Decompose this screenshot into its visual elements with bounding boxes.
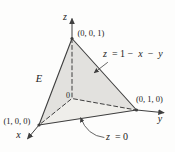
z-axis-label: z bbox=[62, 11, 67, 22]
base-eq-rest: = 0 bbox=[112, 131, 128, 142]
vertex-dot-left bbox=[37, 123, 40, 126]
vertex-dot-top bbox=[70, 37, 73, 40]
plane-eq-z: z bbox=[102, 48, 107, 59]
base-label-arrow bbox=[81, 118, 104, 138]
vertex-right-label: (0, 1, 0) bbox=[136, 94, 163, 104]
plane-eq-y: y bbox=[157, 48, 163, 59]
vertex-top-label: (0, 0, 1) bbox=[78, 28, 105, 38]
y-axis-label: y bbox=[157, 113, 163, 124]
vertex-dot-right bbox=[135, 108, 138, 111]
plane-equation-label: z = 1 − x − y bbox=[102, 48, 163, 59]
x-axis-label: x bbox=[15, 129, 21, 140]
figure-tetrahedron-region: z (0, 0, 1) (0, 1, 0) y (1, 0, 0) x E 0 … bbox=[0, 0, 175, 152]
base-equation-label: z = 0 bbox=[105, 131, 128, 142]
region-label: E bbox=[35, 73, 43, 84]
origin-label: 0 bbox=[66, 91, 70, 100]
plane-eq-x: x bbox=[137, 48, 143, 59]
base-eq-z: z bbox=[105, 131, 110, 142]
vertex-left-label: (1, 0, 0) bbox=[4, 116, 31, 126]
x-axis-line bbox=[28, 125, 39, 138]
plane-eq-mid: = 1 − bbox=[109, 48, 135, 59]
tetrahedron-diagram: z (0, 0, 1) (0, 1, 0) y (1, 0, 0) x E 0 … bbox=[0, 0, 175, 152]
plane-eq-minus: − bbox=[145, 48, 156, 59]
